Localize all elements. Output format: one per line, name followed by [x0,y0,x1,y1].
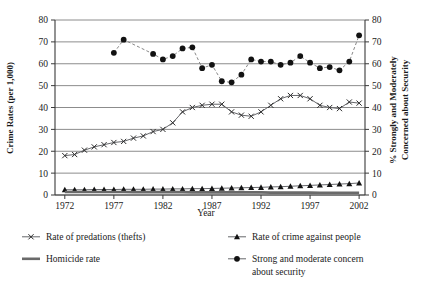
data-point [82,148,87,153]
data-point [180,46,186,52]
data-point [288,60,294,66]
legend-label: about security [252,267,306,277]
data-point [229,79,235,85]
chart-container: 01020304050607080 01020304050607080 1972… [0,0,422,287]
x-axis-tick-marks [65,195,359,199]
data-point [180,109,185,114]
series-3 [111,32,362,85]
y2-axis-tick-marks [365,20,369,195]
data-point [278,62,284,68]
data-point [248,56,254,62]
data-point [170,120,175,125]
legend-item: Strong and moderate concern [228,254,364,264]
x-tick-label: 1972 [55,201,74,211]
data-point [346,59,352,65]
y-axis-title: Crime Rates (per 1,000) [5,62,15,154]
data-point [327,64,333,70]
data-point [219,78,225,84]
y-tick-label: 30 [39,125,49,135]
data-point [356,32,362,38]
data-point [317,65,323,71]
legend-item: Rate of predations (thefts) [22,232,145,243]
data-point [189,44,195,50]
data-point [278,96,283,101]
x-tick-label: 1982 [153,201,172,211]
x-tick-label: 1977 [104,201,123,211]
y-tick-label: 60 [39,59,49,69]
legend-label: Rate of predations (thefts) [46,232,145,243]
y-tick-label: 10 [39,169,49,179]
y2-tick-label: 0 [372,190,377,200]
y-tick-label: 20 [39,147,49,157]
data-point [258,109,263,114]
data-point [150,51,156,57]
data-point [121,37,127,43]
y2-tick-label: 60 [372,59,382,69]
y2-tick-label: 70 [372,37,382,47]
legend-label: Homicide rate [46,254,100,264]
data-point [160,56,166,62]
series-2 [65,192,359,193]
data-point [111,50,117,56]
legend-label: Strong and moderate concern [252,254,364,264]
gridlines [55,20,365,195]
legend-item: Rate of crime against people [228,232,361,242]
data-point [307,60,313,66]
data-point [170,53,176,59]
y-tick-label: 70 [39,37,49,47]
data-point [199,65,205,71]
legend-item: Homicide rate [22,254,100,264]
y2-tick-label: 20 [372,147,382,157]
y2-axis-title-line2: Concerned about Security [400,59,410,160]
y2-axis-title-line1: % Strongly and Moderately [388,56,398,164]
x-tick-label: 2002 [350,201,369,211]
y-tick-label: 40 [39,103,49,113]
data-point [238,72,244,78]
x-tick-label: 1992 [252,201,271,211]
data-point [297,53,303,59]
crime-rates-line-chart: 01020304050607080 01020304050607080 1972… [0,0,422,287]
y2-tick-label: 40 [372,103,382,113]
y2-tick-label: 10 [372,169,382,179]
x-axis-title: Year [197,208,215,218]
y-tick-label: 50 [39,81,49,91]
y2-axis-tick-labels: 01020304050607080 [372,15,382,200]
data-point [229,109,234,114]
series-line-3 [114,35,359,82]
series-line-2 [65,192,359,193]
y-tick-label: 0 [43,190,48,200]
data-point [268,59,274,65]
series-0 [62,93,362,158]
data-point [258,59,264,65]
y-axis-tick-marks [51,20,55,195]
x-tick-label: 1997 [301,201,320,211]
data-point [307,96,312,101]
y2-tick-label: 50 [372,81,382,91]
legend-item: about security [252,267,306,277]
y-tick-label: 80 [39,15,49,25]
series-1 [62,180,362,192]
y2-tick-label: 80 [372,15,382,25]
data-point [209,62,215,68]
series-layer [62,32,362,192]
data-point [337,67,343,73]
legend-label: Rate of crime against people [252,232,361,242]
y2-tick-label: 30 [372,125,382,135]
legend-marker-dot [234,256,240,262]
chart-legend: Rate of predations (thefts)Rate of crime… [22,232,364,277]
y-axis-tick-labels: 01020304050607080 [39,15,49,200]
